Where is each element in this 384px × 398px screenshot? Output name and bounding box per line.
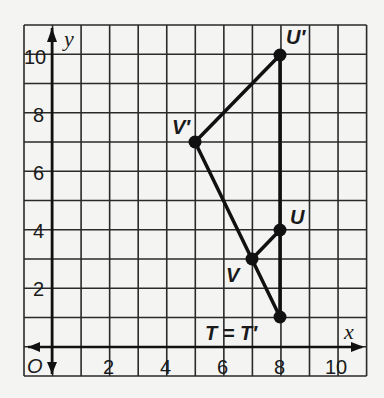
y-tick-4: 4	[33, 220, 44, 242]
y-tick-2: 2	[33, 278, 44, 300]
segment-vprime-uprime	[195, 55, 280, 142]
origin-label: O	[27, 355, 43, 377]
x-axis-arrow-left-icon	[28, 342, 40, 352]
y-tick-10: 10	[24, 46, 46, 68]
coordinate-plane: y x O 2 4 6 8 10 2 4 6 8 10 U′ V′ U V T …	[0, 0, 384, 398]
y-axis-arrow-down-icon	[47, 362, 57, 374]
x-tick-6: 6	[217, 356, 228, 378]
y-tick-8: 8	[33, 104, 44, 126]
point-u-prime	[274, 49, 287, 62]
x-tick-10: 10	[325, 356, 347, 378]
label-t-equals-t-prime: T = T′	[205, 322, 258, 344]
y-axis-label: y	[62, 26, 74, 51]
point-v-prime	[189, 136, 202, 149]
y-tick-6: 6	[33, 162, 44, 184]
label-u: U	[290, 206, 305, 228]
grid	[24, 25, 367, 376]
x-tick-2: 2	[103, 356, 114, 378]
label-u-prime: U′	[286, 26, 306, 48]
label-v: V	[226, 264, 241, 286]
y-axis-arrow-up-icon	[47, 28, 57, 42]
point-v	[246, 253, 259, 266]
x-axis-label: x	[343, 319, 354, 344]
label-v-prime: V′	[172, 116, 191, 138]
x-tick-8: 8	[274, 356, 285, 378]
x-tick-4: 4	[160, 356, 171, 378]
point-u	[274, 224, 287, 237]
point-t	[274, 311, 287, 324]
